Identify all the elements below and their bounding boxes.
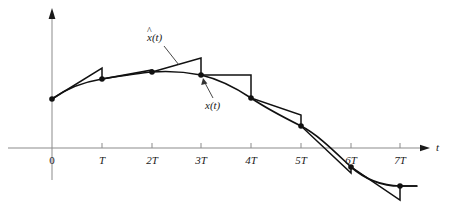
extrapolated-label-leader [164,46,179,65]
x-tick-label-T: T [99,155,105,166]
original-label-leader [201,78,213,98]
x-hat-glyph: ^ x [147,32,152,43]
x-axis-label: t [436,142,439,153]
x-hat-suffix: (t) [152,31,162,43]
x-tick-label-4T: 4T [245,155,257,166]
original-leader-arrowhead [201,78,207,85]
extrapolated-signal-label: ^ x (t) [147,32,162,43]
x-tick-label-3T: 3T [195,155,207,166]
x-tick-label-5T: 5T [295,155,307,166]
x-axis [8,143,430,151]
x-tick-label-7T: 7T [394,155,406,166]
extrapolated-leader-line [164,46,179,65]
sample-dot-0 [49,96,55,102]
original-signal-path [52,72,417,186]
original-leader-line [205,83,213,98]
x-tick-label-6T: 6T [345,155,357,166]
y-axis-arrowhead [49,8,56,19]
signal-plot [0,0,456,215]
sample-dot-7T [397,183,403,189]
extrapolated-signal-path [52,58,417,200]
original-signal-label: x(t) [205,100,220,111]
x-axis-arrowhead [420,145,430,151]
x-tick-label-0: 0 [49,155,55,166]
sample-dot-3T [198,72,204,78]
sample-dot-5T [298,123,304,129]
sample-dot-2T [149,69,155,75]
x-tick-label-2T: 2T [146,155,158,166]
figure-container: 0 T 2T 3T 4T 5T 6T 7T t ^ x (t) x(t) [0,0,456,215]
sample-dot-T [99,76,105,82]
hat-accent-icon: ^ [147,26,152,36]
sample-dot-4T [248,95,254,101]
